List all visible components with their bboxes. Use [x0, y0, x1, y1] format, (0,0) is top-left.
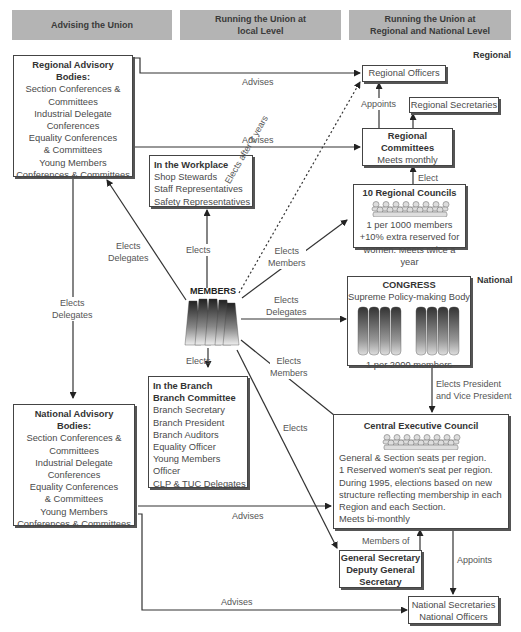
label-line: Delegates — [108, 253, 149, 263]
label-elects-president: Elects President and Vice President — [436, 378, 511, 402]
label-line: Elects — [275, 246, 300, 256]
workplace-line: Staff Representatives — [154, 184, 243, 194]
na-line: Industrial Delegate — [35, 458, 113, 468]
ra-line: Young Members — [39, 158, 106, 168]
label-line: and Vice President — [436, 391, 511, 401]
branch-box: In the Branch Branch Committee Branch Se… — [148, 376, 248, 488]
branch-title1: In the Branch — [153, 381, 212, 391]
label-appoints-regional: Appoints — [361, 98, 396, 110]
congress-box: CONGRESS Supreme Policy-making Body 1 pe… — [347, 276, 471, 366]
label-elects-workplace: Elects — [186, 244, 211, 256]
branch-line: CLP & TUC Delegates — [153, 479, 246, 489]
regional-secretaries-title: Regional Secretaries — [411, 100, 497, 110]
cec-line: structure reflecting membership in each — [339, 490, 502, 500]
branch-line: Branch President — [153, 418, 224, 428]
ra-line: Industrial Delegate — [34, 109, 112, 119]
congress-sub: Supreme Policy-making Body — [348, 292, 470, 302]
general-secretary-box: General Secretary Deputy General Secreta… — [339, 550, 422, 588]
cec-line: Meets bi-monthly — [339, 514, 410, 524]
label-elect: Elect — [418, 172, 438, 184]
label-members-of: Members of — [362, 535, 410, 547]
label-elects-delegates-national-advisory: Elects Delegates — [52, 297, 93, 321]
label-elects-branch: Elects — [186, 355, 211, 367]
cec-line: General & Section seats per region. — [339, 453, 486, 463]
label-elects-delegates-congress: Elects Delegates — [266, 294, 307, 318]
workplace-line: Safety Representatives — [154, 197, 250, 207]
cec-line: During 1995, elections based on new — [339, 478, 492, 488]
national-advisory-bodies: National Advisory Bodies: Section Confer… — [13, 404, 135, 526]
branch-line: Branch Auditors — [153, 430, 219, 440]
na-line: Equality Conferences — [30, 482, 118, 492]
ra-line: Conferences — [47, 121, 100, 131]
rc-title2: Committees — [381, 143, 434, 153]
label-advises-national-secretaries: Advises — [221, 596, 253, 608]
label-appoints-national: Appoints — [457, 554, 492, 566]
na-line: Section Conferences & — [26, 433, 121, 443]
na-line: Conferences & Committees — [17, 519, 131, 529]
councils-line: +10% extra reserved for — [360, 232, 459, 242]
regional-advisory-bodies: Regional Advisory Bodies: Section Confer… — [13, 55, 133, 177]
na-line: Conferences — [48, 470, 101, 480]
congress-crowd-icon — [354, 305, 464, 357]
councils-title: 10 Regional Councils — [362, 188, 456, 198]
branch-line: Young Members — [153, 454, 220, 464]
regional-councils-box: 10 Regional Councils 1 per 1000 members … — [353, 184, 466, 248]
ns-line: National Officers — [419, 612, 488, 622]
cec-line: Region and each Section. — [339, 502, 445, 512]
crowd-icon — [370, 201, 450, 217]
label-line: Members — [270, 368, 308, 378]
label-line: Members — [268, 258, 306, 268]
ra-line: Conferences & Committees — [16, 170, 130, 180]
label-elects-delegates-regional: Elects Delegates — [108, 240, 149, 264]
regional-secretaries-box: Regional Secretaries — [409, 97, 499, 113]
na-line: & Committees — [45, 494, 103, 504]
label-line: Delegates — [266, 307, 307, 317]
rc-title1: Regional — [388, 131, 427, 141]
ra-line: & Committees — [44, 145, 102, 155]
gs-line: Deputy General — [346, 565, 415, 575]
gs-line: General Secretary — [341, 553, 421, 563]
members-title: MEMBERS — [190, 286, 236, 296]
cec-line: 1 Reserved women's seat per region. — [339, 465, 493, 475]
cec-crowd-icon — [381, 434, 461, 450]
branch-title2: Branch Committee — [153, 393, 236, 403]
members-crowd-icon — [183, 297, 241, 347]
label-line: Elects — [116, 241, 141, 251]
label-advises-cec: Advises — [232, 510, 264, 522]
label-elects-members-cec: Elects Members — [270, 355, 308, 379]
branch-line: Officer — [153, 466, 180, 476]
ra-line: Committees — [48, 97, 98, 107]
branch-line: Branch Secretary — [153, 405, 225, 415]
gs-line: Secretary — [359, 577, 401, 587]
branch-line: Equality Officer — [153, 442, 216, 452]
councils-line: women. Meets twice a year — [364, 245, 456, 267]
national-secretaries-box: National Secretaries National Officers — [408, 596, 499, 624]
label-elects-members-councils: Elects Members — [268, 245, 306, 269]
label-line: Delegates — [52, 310, 93, 320]
national-advisory-title: National Advisory — [35, 409, 114, 419]
congress-title: CONGRESS — [382, 280, 435, 290]
label-elects-general-secretary: Elects — [283, 422, 308, 434]
na-line: Committees — [49, 446, 99, 456]
regional-advisory-title: Regional Advisory — [32, 60, 113, 70]
workplace-title: In the Workplace — [154, 160, 228, 170]
regional-advisory-title2: Bodies: — [56, 72, 90, 82]
ns-line: National Secretaries — [412, 600, 496, 610]
national-advisory-title2: Bodies: — [57, 421, 91, 431]
regional-officers-box: Regional Officers — [362, 65, 446, 82]
na-line: Young Members — [40, 507, 107, 517]
workplace-line: Shop Stewards — [154, 172, 217, 182]
congress-footer: 1 per 2000 members — [366, 360, 452, 370]
regional-officers-title: Regional Officers — [368, 68, 439, 78]
label-line: Elects — [277, 356, 302, 366]
cec-box: Central Executive Council General & Sect… — [333, 414, 509, 529]
ra-line: Equality Conferences — [29, 133, 117, 143]
regional-committees-box: Regional Committees Meets monthly — [362, 128, 453, 166]
label-line: Elects — [274, 295, 299, 305]
cec-title: Central Executive Council — [364, 421, 479, 431]
ra-line: Section Conferences & — [25, 84, 120, 94]
councils-line: 1 per 1000 members — [367, 220, 453, 230]
label-line: Elects — [60, 298, 85, 308]
label-advises-regional-officers: Advises — [242, 76, 274, 88]
label-line: Elects President — [436, 379, 501, 389]
